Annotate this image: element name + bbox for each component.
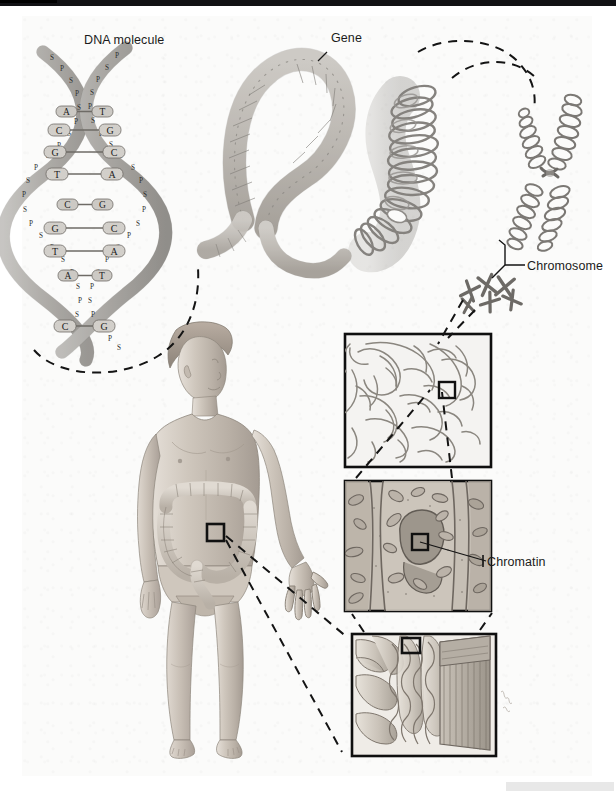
svg-text:P: P [90,283,94,291]
svg-text:P: P [74,118,78,126]
svg-text:P: P [60,65,64,73]
svg-text:T: T [54,169,60,180]
connector-coil-chromosome-a [418,41,535,110]
svg-text:P: P [88,103,92,111]
intestinal-villi-panel [352,634,512,756]
svg-text:A: A [65,271,72,281]
illustration-artwork: SPS PSP SPS PSP SPS PSP SPS PSP SPS PSP … [0,0,616,797]
svg-text:G: G [51,147,58,158]
svg-text:G: G [99,200,106,210]
svg-text:P: P [78,297,82,305]
condensed-chromatin-fiber [351,82,439,258]
svg-text:S: S [75,311,79,319]
svg-text:S: S [69,77,73,85]
svg-text:P: P [108,335,112,343]
gene-ribbon-illustration [206,52,344,271]
chromatin-threads-panel [322,334,491,467]
svg-text:S: S [39,232,43,240]
label-dna-molecule: DNA molecule [84,33,164,47]
svg-text:S: S [131,164,135,172]
svg-text:A: A [108,169,116,180]
svg-text:S: S [91,117,95,125]
svg-text:P: P [75,90,79,98]
label-chromosome: Chromosome [527,259,603,273]
connector-coil-chromosome-b [452,62,534,78]
svg-text:T: T [99,271,105,281]
svg-text:C: C [64,200,70,210]
svg-text:G: G [51,223,58,234]
svg-text:S: S [23,206,27,214]
svg-text:S: S [88,297,92,305]
label-gene: Gene [331,31,362,45]
svg-text:C: C [111,147,118,158]
svg-text:S: S [105,64,109,72]
connector-panel3-panel2-b [480,613,492,630]
svg-text:P: P [96,76,100,84]
svg-text:P: P [22,191,26,199]
label-chromatin: Chromatin [487,555,546,569]
chromosome-cluster [461,275,522,313]
svg-text:S: S [26,177,30,185]
metaphase-chromosome [506,93,583,253]
svg-text:P: P [34,164,38,172]
svg-text:T: T [100,107,106,117]
svg-text:S: S [143,191,147,199]
artist-signature [501,691,512,711]
svg-text:S: S [50,54,54,62]
svg-text:T: T [52,246,58,257]
svg-text:P: P [91,311,95,319]
svg-text:P: P [29,220,33,228]
svg-text:C: C [62,321,69,332]
svg-text:P: P [115,52,119,60]
dna-molecule-illustration: SPS PSP SPS PSP SPS PSP SPS PSP SPS PSP … [3,48,166,360]
svg-text:S: S [136,220,140,228]
svg-text:C: C [111,223,118,234]
svg-text:S: S [76,283,80,291]
svg-text:A: A [110,246,118,257]
human-male-figure [138,322,328,759]
svg-text:A: A [63,107,70,117]
svg-text:P: P [139,177,143,185]
svg-text:G: G [106,125,113,136]
figure-canvas: SPS PSP SPS PSP SPS PSP SPS PSP SPS PSP … [0,0,616,797]
chromosome-small [503,290,521,310]
chromosome-small [462,297,474,312]
svg-text:P: P [142,206,146,214]
cell-micrograph-panel [344,481,491,611]
svg-text:S: S [90,89,94,97]
connector-body-panel3-b [226,540,342,752]
svg-text:P: P [127,232,131,240]
svg-text:G: G [100,321,107,332]
svg-text:C: C [56,125,63,136]
svg-text:S: S [117,344,121,352]
connector-panel3-panel2-a [352,614,364,632]
